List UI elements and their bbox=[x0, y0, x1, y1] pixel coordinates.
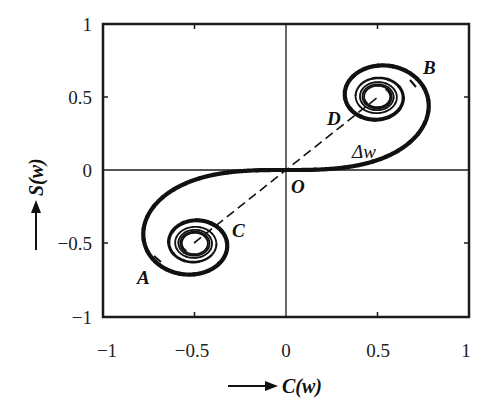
spiral-segment bbox=[169, 231, 173, 242]
spiral-segment bbox=[399, 86, 404, 97]
spiral-segment bbox=[172, 223, 182, 231]
x-tick-1: 1 bbox=[461, 340, 471, 361]
spiral-segment bbox=[179, 274, 194, 275]
y-tick-0: 0 bbox=[83, 160, 93, 181]
label-delta-w: Δw bbox=[351, 141, 376, 162]
spiral-segment bbox=[169, 243, 174, 254]
spiral-segment bbox=[242, 170, 257, 171]
x-axis-title: C(w) bbox=[282, 375, 322, 398]
spiral-segment bbox=[364, 91, 366, 102]
spiral-segment bbox=[197, 220, 211, 223]
x-tick-0: 0 bbox=[281, 340, 291, 361]
label-A: A bbox=[136, 267, 150, 288]
spiral-segment bbox=[175, 237, 176, 248]
spiral-segment bbox=[389, 109, 399, 117]
x-tick-neg1: −1 bbox=[97, 340, 117, 361]
spiral-segment bbox=[378, 65, 393, 66]
spiral-segment bbox=[393, 66, 406, 71]
y-axis-arrow-icon bbox=[31, 200, 41, 213]
label-B: B bbox=[422, 57, 436, 78]
spiral-segment bbox=[400, 97, 404, 108]
cornu-spiral-chart: 1 0.5 0 −0.5 −1 −1 −0.5 0 0.5 1 A B C D … bbox=[0, 0, 497, 410]
x-tick-0.5: 0.5 bbox=[366, 340, 390, 361]
spiral-segment bbox=[315, 169, 330, 170]
x-tick-neg0.5: −0.5 bbox=[175, 340, 209, 361]
y-axis-title: S(w) bbox=[25, 158, 48, 196]
spiral-segment bbox=[375, 117, 389, 120]
spiral-segment bbox=[344, 165, 358, 167]
spiral-segment bbox=[372, 112, 386, 114]
spiral-segment bbox=[212, 234, 216, 245]
spiral-segment bbox=[228, 171, 243, 172]
y-tick-0.5: 0.5 bbox=[68, 87, 92, 108]
spiral-segment bbox=[361, 117, 375, 120]
spiral-segment bbox=[396, 92, 397, 103]
spiral-segment bbox=[213, 173, 227, 175]
spiral-segment bbox=[194, 271, 208, 275]
spiral-segment bbox=[199, 175, 213, 179]
label-O: O bbox=[291, 176, 305, 197]
spiral-segment bbox=[206, 238, 208, 249]
spiral-segment bbox=[184, 261, 198, 262]
spiral-segment bbox=[359, 162, 373, 166]
spiral-segment bbox=[330, 168, 345, 169]
x-axis-arrow-icon bbox=[265, 381, 278, 391]
marker-B-tick bbox=[410, 80, 416, 87]
spiral-segment bbox=[373, 78, 387, 79]
spiral-segment bbox=[183, 220, 197, 223]
y-tick-neg1: −1 bbox=[72, 307, 92, 328]
y-tick-neg0.5: −0.5 bbox=[58, 233, 92, 254]
spiral-segment bbox=[360, 91, 362, 102]
label-D: D bbox=[326, 108, 341, 129]
spiral-segment bbox=[364, 66, 378, 70]
spiral-segment bbox=[356, 95, 360, 106]
y-tick-1: 1 bbox=[83, 14, 93, 35]
spiral-segment bbox=[371, 82, 385, 83]
spiral-segment bbox=[186, 257, 200, 258]
spiral-segment bbox=[186, 178, 199, 183]
spiral-segment bbox=[210, 238, 212, 249]
spiral-segment bbox=[186, 227, 200, 229]
label-C: C bbox=[232, 220, 245, 241]
spiral-segment bbox=[166, 269, 179, 274]
